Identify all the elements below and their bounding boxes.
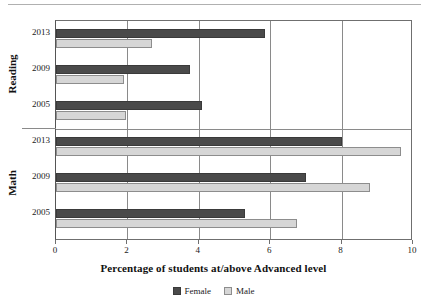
- bar-math-2005-male: [56, 219, 297, 228]
- top-divider-rule: [8, 4, 421, 5]
- group-separator: [56, 129, 411, 130]
- xtick-mark-6: [269, 240, 270, 244]
- ytick-label-reading-2005: 2005: [20, 99, 50, 109]
- bar-math-2005-female: [56, 209, 245, 218]
- bar-row-math-2005: [56, 209, 411, 231]
- xtick-mark-0: [55, 240, 56, 244]
- gridline-8: [342, 21, 343, 239]
- xtick-label-6: 6: [267, 245, 272, 255]
- legend-item-male: Male: [224, 286, 255, 296]
- ytick-label-math-2005: 2005: [20, 207, 50, 217]
- ytick-label-math-2009: 2009: [20, 171, 50, 181]
- group-label-math: Math: [6, 155, 18, 211]
- xtick-label-4: 4: [196, 245, 201, 255]
- xtick-label-8: 8: [338, 245, 343, 255]
- group-separator-extension: [22, 128, 56, 129]
- ytick-label-reading-2013: 2013: [20, 27, 50, 37]
- bar-reading-2009-female: [56, 65, 190, 74]
- bar-row-math-2009: [56, 173, 411, 195]
- bar-math-2013-female: [56, 137, 342, 146]
- bar-row-reading-2013: [56, 29, 411, 51]
- x-axis-title: Percentage of students at/above Advanced…: [0, 262, 427, 274]
- plot-area: [55, 20, 412, 240]
- legend-item-female: Female: [173, 286, 212, 296]
- legend-label-male: Male: [236, 286, 255, 296]
- group-label-reading: Reading: [6, 46, 18, 102]
- gridline-2: [127, 21, 128, 239]
- bar-reading-2005-female: [56, 101, 202, 110]
- bar-row-reading-2005: [56, 101, 411, 123]
- bar-reading-2009-male: [56, 75, 124, 84]
- bar-row-reading-2009: [56, 65, 411, 87]
- xtick-label-0: 0: [53, 245, 58, 255]
- bar-reading-2013-male: [56, 39, 152, 48]
- ytick-label-reading-2009: 2009: [20, 63, 50, 73]
- bar-reading-2013-female: [56, 29, 265, 38]
- bar-math-2009-female: [56, 173, 306, 182]
- xtick-label-10: 10: [408, 245, 417, 255]
- bar-math-2009-male: [56, 183, 370, 192]
- legend-swatch-male-icon: [224, 287, 232, 295]
- gridline-4: [199, 21, 200, 239]
- xtick-mark-4: [198, 240, 199, 244]
- gridline-6: [270, 21, 271, 239]
- bar-row-math-2013: [56, 137, 411, 159]
- chart-legend: Female Male: [0, 286, 427, 296]
- xtick-mark-10: [412, 240, 413, 244]
- bar-reading-2005-male: [56, 111, 126, 120]
- chart-figure: 2013 2009 2005 2013 2009 2005 Reading Ma…: [0, 0, 427, 305]
- xtick-label-2: 2: [124, 245, 129, 255]
- legend-label-female: Female: [185, 286, 212, 296]
- ytick-label-math-2013: 2013: [20, 135, 50, 145]
- xtick-mark-2: [126, 240, 127, 244]
- legend-swatch-female-icon: [173, 287, 181, 295]
- xtick-mark-8: [341, 240, 342, 244]
- bar-math-2013-male: [56, 147, 401, 156]
